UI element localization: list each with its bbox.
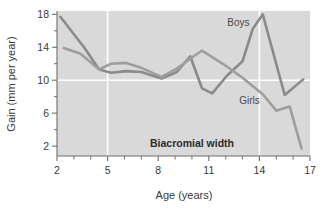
- y-tick-label: 18: [37, 8, 49, 20]
- series-label-girls: Girls: [239, 95, 260, 106]
- series-label-boys: Boys: [227, 17, 249, 28]
- y-tick-label: 6: [43, 107, 49, 119]
- y-tick-label: 2: [43, 140, 49, 152]
- y-tick-label: 14: [37, 41, 49, 53]
- x-tick-label: 17: [304, 164, 316, 176]
- x-tick-label: 5: [105, 164, 111, 176]
- y-tick-label: 10: [37, 74, 49, 86]
- x-axis-title: Age (years): [156, 189, 213, 201]
- x-tick-label: 2: [54, 164, 60, 176]
- x-tick-label: 14: [254, 164, 266, 176]
- chart-annotation: Biacromial width: [150, 137, 234, 149]
- x-tick-label: 8: [155, 164, 161, 176]
- y-axis-title: Gain (mm per year): [5, 36, 17, 131]
- line-chart: 26101418 258111417 Gain (mm per year) Ag…: [0, 0, 328, 217]
- x-tick-label: 11: [203, 164, 214, 176]
- plot-area-background: [57, 11, 310, 156]
